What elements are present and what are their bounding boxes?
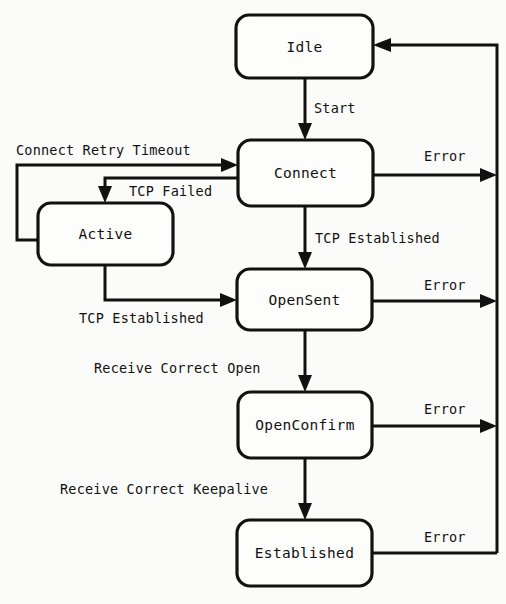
state-node-opensent[interactable]: OpenSent bbox=[237, 269, 372, 330]
edge-label-receive-correct-open: Receive Correct Open bbox=[94, 360, 261, 376]
edge-label-openconfirm-error: Error bbox=[424, 401, 466, 417]
edge-label-opensent-error: Error bbox=[424, 277, 466, 293]
edge-label-tcp-failed: TCP Failed bbox=[129, 183, 212, 199]
edge-connect-to-opensent: TCP Established bbox=[298, 206, 440, 269]
edge-connect-to-active: TCP Failed bbox=[98, 178, 238, 203]
arrowhead-connect-error bbox=[480, 168, 497, 182]
edge-openconfirm-error: Error bbox=[372, 401, 497, 433]
state-node-idle[interactable]: Idle bbox=[236, 15, 373, 78]
edge-label-established-error: Error bbox=[424, 529, 466, 545]
arrowhead-opensent-error bbox=[480, 294, 497, 308]
state-label-established: Established bbox=[255, 545, 354, 561]
state-label-openconfirm: OpenConfirm bbox=[255, 417, 354, 433]
state-label-active: Active bbox=[78, 226, 132, 242]
state-machine-canvas: Error Error Error Error Start bbox=[0, 0, 506, 604]
state-node-active[interactable]: Active bbox=[38, 203, 173, 265]
edge-label-connect-retry-timeout: Connect Retry Timeout bbox=[16, 142, 191, 158]
edge-idle-to-connect: Start bbox=[298, 78, 356, 140]
edge-connect-error: Error bbox=[373, 148, 497, 182]
state-label-idle: Idle bbox=[286, 39, 322, 55]
arrowhead-openconfirm-error bbox=[480, 419, 497, 433]
arrowhead-connect-to-opensent bbox=[298, 252, 312, 269]
edge-label-receive-correct-keepalive: Receive Correct Keepalive bbox=[60, 481, 268, 497]
edge-label-tcp-established-active: TCP Established bbox=[79, 310, 204, 326]
edge-label-connect-error: Error bbox=[424, 148, 466, 164]
arrowhead-openconfirm-to-established bbox=[298, 503, 312, 520]
edge-established-error: Error bbox=[372, 529, 497, 553]
edge-opensent-to-openconfirm: Receive Correct Open bbox=[94, 330, 312, 392]
state-label-opensent: OpenSent bbox=[268, 292, 340, 308]
arrowhead-into-idle bbox=[373, 38, 391, 52]
edge-label-start: Start bbox=[314, 100, 356, 116]
edge-active-to-opensent: TCP Established bbox=[79, 265, 237, 326]
state-node-openconfirm[interactable]: OpenConfirm bbox=[238, 392, 372, 458]
state-node-connect[interactable]: Connect bbox=[238, 140, 373, 206]
arrowhead-active-to-connect bbox=[221, 158, 238, 172]
arrowhead-connect-to-active bbox=[98, 186, 112, 203]
edge-openconfirm-to-established: Receive Correct Keepalive bbox=[60, 458, 312, 520]
edge-error-return-bus bbox=[373, 38, 497, 553]
bgp-state-machine-diagram: Error Error Error Error Start bbox=[0, 0, 506, 604]
state-node-established[interactable]: Established bbox=[237, 520, 372, 586]
arrowhead-active-to-opensent bbox=[220, 293, 237, 307]
edge-opensent-error: Error bbox=[372, 277, 497, 308]
edge-label-tcp-established-connect: TCP Established bbox=[315, 230, 440, 246]
arrowhead-idle-to-connect bbox=[298, 123, 312, 140]
state-label-connect: Connect bbox=[274, 165, 337, 181]
arrowhead-opensent-to-openconfirm bbox=[298, 375, 312, 392]
